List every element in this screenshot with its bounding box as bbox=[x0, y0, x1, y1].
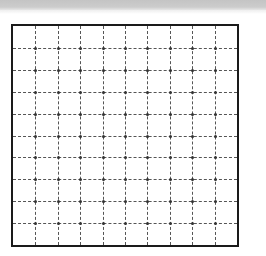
grid-intersection-dot bbox=[191, 91, 194, 94]
grid-intersection-dot bbox=[146, 222, 149, 225]
grid-intersection-dot bbox=[57, 135, 60, 138]
grid-intersection-dot bbox=[102, 47, 105, 50]
grid-intersection-dot bbox=[124, 178, 127, 181]
grid-intersection-dot bbox=[146, 69, 149, 72]
grid-intersection-dot bbox=[102, 69, 105, 72]
grid-intersection-dot bbox=[214, 178, 217, 181]
grid-intersection-dot bbox=[102, 135, 105, 138]
grid-intersection-dot bbox=[124, 91, 127, 94]
grid-intersection-dot bbox=[169, 178, 172, 181]
grid-intersection-dot bbox=[124, 113, 127, 116]
grid-intersection-dot bbox=[34, 47, 37, 50]
grid-intersection-dot bbox=[169, 91, 172, 94]
grid-intersection-dot bbox=[169, 47, 172, 50]
grid-intersection-dot bbox=[214, 135, 217, 138]
grid-intersection-dot bbox=[34, 69, 37, 72]
grid-intersection-dot bbox=[146, 156, 149, 159]
grid-intersection-dot bbox=[57, 200, 60, 203]
grid-intersection-dot bbox=[57, 222, 60, 225]
grid-intersection-dot bbox=[79, 178, 82, 181]
grid-intersection-dot bbox=[214, 156, 217, 159]
grid-intersection-dot bbox=[79, 69, 82, 72]
grid-intersection-dot bbox=[191, 135, 194, 138]
grid-intersection-dot bbox=[169, 69, 172, 72]
grid-intersection-dot bbox=[146, 47, 149, 50]
grid-intersection-dot bbox=[79, 222, 82, 225]
grid-intersection-dot bbox=[57, 91, 60, 94]
grid-intersection-dot bbox=[124, 135, 127, 138]
grid-intersection-dot bbox=[214, 113, 217, 116]
grid-intersection-dot bbox=[169, 222, 172, 225]
grid-intersection-dot bbox=[79, 135, 82, 138]
grid-intersection-dot bbox=[214, 222, 217, 225]
grid-intersection-dot bbox=[102, 156, 105, 159]
grid-intersection-dot bbox=[214, 47, 217, 50]
top-header-bar bbox=[0, 0, 266, 10]
grid-intersection-dot bbox=[79, 47, 82, 50]
grid-intersection-dot bbox=[214, 69, 217, 72]
grid-intersection-dot bbox=[191, 200, 194, 203]
grid-intersection-dot bbox=[57, 47, 60, 50]
grid-intersection-dot bbox=[124, 47, 127, 50]
grid-intersection-dot bbox=[34, 156, 37, 159]
grid-intersection-dot bbox=[57, 156, 60, 159]
grid-intersection-dot bbox=[57, 113, 60, 116]
grid-intersection-dot bbox=[124, 69, 127, 72]
grid-intersection-dot bbox=[124, 200, 127, 203]
grid-intersection-dot bbox=[191, 113, 194, 116]
grid-intersection-dot bbox=[79, 156, 82, 159]
grid-intersection-dot bbox=[34, 200, 37, 203]
grid-intersection-dot bbox=[34, 178, 37, 181]
grid-intersection-dot bbox=[214, 91, 217, 94]
grid-intersection-dot bbox=[191, 69, 194, 72]
grid-intersection-dot bbox=[124, 222, 127, 225]
grid-intersection-dot bbox=[146, 135, 149, 138]
grid-intersection-dot bbox=[102, 222, 105, 225]
grid-intersection-dot bbox=[169, 113, 172, 116]
grid-intersection-dot bbox=[34, 135, 37, 138]
header-shadow bbox=[0, 10, 266, 14]
grid-intersection-dot bbox=[34, 91, 37, 94]
grid-diagram bbox=[11, 24, 239, 247]
grid-intersection-dot bbox=[102, 113, 105, 116]
grid-intersection-dot bbox=[79, 113, 82, 116]
grid-intersection-dot bbox=[169, 135, 172, 138]
grid-intersection-dot bbox=[79, 200, 82, 203]
grid-intersection-dot bbox=[214, 200, 217, 203]
grid-intersection-dot bbox=[79, 91, 82, 94]
grid-intersection-dot bbox=[57, 69, 60, 72]
grid-intersection-dot bbox=[169, 200, 172, 203]
grid-intersection-dot bbox=[57, 178, 60, 181]
grid-intersection-dot bbox=[146, 200, 149, 203]
grid-intersection-dot bbox=[191, 47, 194, 50]
grid-intersection-dot bbox=[102, 178, 105, 181]
grid-intersection-dot bbox=[169, 156, 172, 159]
grid-intersection-dot bbox=[146, 113, 149, 116]
grid-intersection-dot bbox=[191, 178, 194, 181]
grid-intersection-dot bbox=[124, 156, 127, 159]
grid-intersection-dot bbox=[146, 91, 149, 94]
grid-intersection-dot bbox=[191, 222, 194, 225]
grid-intersection-dot bbox=[102, 200, 105, 203]
grid-intersection-dot bbox=[102, 91, 105, 94]
grid-intersection-dot bbox=[34, 222, 37, 225]
grid-intersection-dot bbox=[34, 113, 37, 116]
grid-intersection-dot bbox=[146, 178, 149, 181]
grid-intersection-dot bbox=[191, 156, 194, 159]
